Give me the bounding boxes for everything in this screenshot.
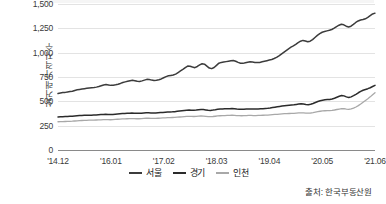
series-line-인천 — [58, 93, 375, 122]
legend-item-서울[interactable]: 서울 — [129, 166, 162, 179]
series-lines — [58, 4, 375, 150]
x-tick-5: '20.05 — [311, 156, 333, 166]
x-tick-2: '17.02 — [153, 156, 175, 166]
legend-label: 서울 — [146, 166, 162, 179]
series-line-서울 — [58, 13, 375, 93]
legend-item-인천[interactable]: 인천 — [216, 166, 249, 179]
y-axis-title: 실거래 가격지수 — [44, 42, 56, 107]
legend-swatch-icon — [216, 172, 229, 174]
x-tick-1: '16.01 — [100, 156, 122, 166]
chart-legend: 서울경기인천 — [0, 166, 378, 179]
gridline-0 — [58, 150, 375, 151]
legend-item-경기[interactable]: 경기 — [173, 166, 206, 179]
legend-swatch-icon — [129, 172, 142, 174]
legend-label: 인천 — [233, 166, 249, 179]
x-tick-0: '14.12 — [47, 156, 69, 166]
y-tick-0: 0 — [8, 145, 53, 155]
plot-area: 실거래 가격지수 '14.12'16.01'17.02'18.03'19.04'… — [58, 4, 375, 150]
top-crop-artifact — [44, 0, 374, 3]
series-line-경기 — [58, 85, 375, 117]
source-note: 출처: 한국부동산원 — [305, 185, 372, 197]
legend-swatch-icon — [173, 172, 186, 174]
legend-label: 경기 — [190, 166, 206, 179]
x-tick-6: '21.06 — [364, 156, 386, 166]
y-tick-250: 250 — [8, 121, 53, 131]
x-tick-3: '18.03 — [206, 156, 228, 166]
y-tick-1250: 1,250 — [8, 23, 53, 33]
x-tick-4: '19.04 — [258, 156, 280, 166]
